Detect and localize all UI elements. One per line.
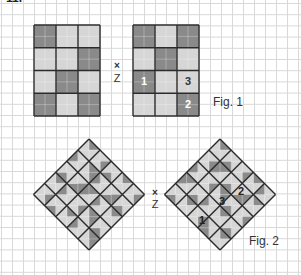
fig2-rotation-center-label: Z [150,199,160,210]
fig1-cell-number: 2 [185,99,191,110]
fig2-cell-number: 2 [238,186,244,197]
fig1-rotation-center-label: Z [112,73,122,84]
fig1-cell-number: 3 [185,76,191,87]
fig2-cell-number: 3 [219,196,225,207]
fig1-left-grid [34,25,100,116]
corner-glyph: 11. [6,0,22,4]
fig1-caption: Fig. 1 [213,96,243,108]
fig2-cell-number: 1 [199,215,205,226]
fig2-left-diamond [34,139,145,250]
fig2-caption: Fig. 2 [249,235,279,247]
fig1-cell-number: 1 [141,76,147,87]
fig1-rotation-center-mark-icon: × [112,61,122,71]
fig2-rotation-center-mark-icon: × [150,188,160,198]
